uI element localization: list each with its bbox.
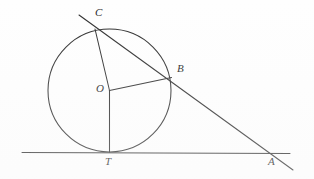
point-label-a: A — [268, 156, 275, 167]
radius-ob-segment — [110, 78, 172, 91]
geometry-figure: C B O T A — [0, 0, 314, 179]
figure-canvas — [0, 0, 314, 179]
point-label-o: O — [96, 83, 104, 94]
tangent-line-segment — [22, 153, 290, 154]
point-label-c: C — [95, 7, 102, 18]
secant-line-segment — [79, 15, 293, 170]
point-label-t: T — [105, 156, 111, 167]
point-label-b: B — [177, 63, 184, 74]
